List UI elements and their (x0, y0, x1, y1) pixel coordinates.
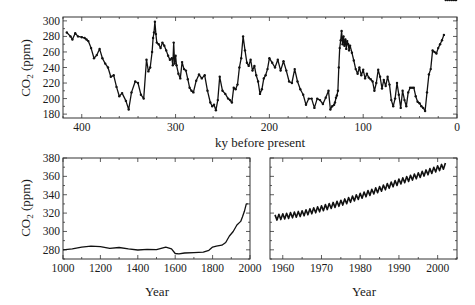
y-tick-label: 180 (43, 108, 61, 120)
y-tick-label: 300 (43, 225, 61, 237)
y-tick-label: 340 (43, 189, 61, 201)
x-tick-label: 200 (261, 121, 279, 133)
y-tick-label: 380 (43, 152, 61, 164)
plot-frame (63, 17, 457, 118)
x-tick-label: 1980 (349, 262, 372, 274)
axis-ticks: 1000120014001600180020002803003203403603… (43, 152, 262, 274)
axis-ticks: 19601970198019902000 (270, 158, 457, 274)
panel-mauna-loa: 19601970198019902000 Year (270, 158, 457, 299)
x-tick-label: 1000 (52, 262, 75, 274)
plot-frame (63, 158, 250, 259)
y-tick-label: 320 (43, 207, 61, 219)
x-tick-label: 1200 (89, 262, 112, 274)
x-tick-label: 300 (167, 121, 185, 133)
co2-series-line (275, 163, 445, 220)
x-tick-label: 1800 (201, 262, 224, 274)
y-tick-label: 280 (43, 244, 61, 256)
x-tick-label: 2000 (426, 262, 449, 274)
x-tick-label: 2000 (239, 262, 262, 274)
y-tick-label: 360 (43, 170, 61, 182)
x-tick-label: 1600 (164, 262, 187, 274)
x-tick-label: 400 (73, 121, 91, 133)
x-tick-label: 1400 (126, 262, 149, 274)
x-tick-label: 0 (454, 121, 460, 133)
y-tick-label: 280 (43, 30, 61, 42)
y-tick-label: 240 (43, 62, 61, 74)
panel-vostok: 4003002001000180200220240260280300 ky be… (18, 0, 460, 150)
figure: 4003002001000180200220240260280300 ky be… (0, 0, 475, 305)
x-axis-title: Year (145, 284, 170, 299)
x-axis-title: ky before present (215, 135, 306, 150)
y-tick-label: 220 (43, 77, 61, 89)
x-tick-label: 1970 (310, 262, 333, 274)
y-tick-label: 300 (43, 15, 61, 27)
y-tick-label: 260 (43, 46, 61, 58)
x-axis-title: Year (352, 284, 377, 299)
y-axis-title: CO2 (ppm) (18, 179, 35, 237)
y-axis-title: CO2 (ppm) (18, 39, 35, 97)
co2-series-line (63, 204, 248, 254)
y-tick-label: 200 (43, 93, 61, 105)
x-tick-label: 1960 (271, 262, 294, 274)
x-tick-label: 100 (355, 121, 373, 133)
panel-law-dome: 1000120014001600180020002803003203403603… (18, 152, 262, 299)
axis-ticks: 4003002001000180200220240260280300 (43, 15, 460, 133)
x-tick-label: 1990 (387, 262, 410, 274)
